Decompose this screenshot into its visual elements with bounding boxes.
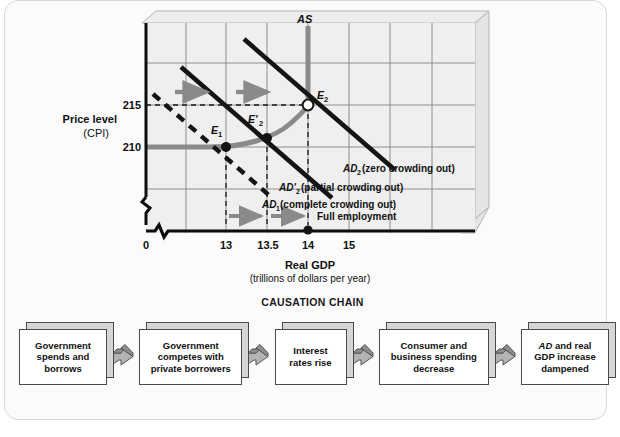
x-tick-0: 0 (143, 239, 149, 251)
svg-text:E': E' (248, 113, 258, 125)
causation-box-4-face[interactable]: Consumer and business spending decrease (379, 329, 489, 385)
box-1-line-1: Government (35, 340, 91, 351)
svg-text:2: 2 (324, 95, 328, 104)
box-1-line-2: spends and (37, 351, 90, 362)
causation-box-3-face[interactable]: Interest rates rise (275, 329, 347, 385)
box-2-line-2: competes with (158, 351, 224, 362)
box-5-line-2: GDP increase (534, 351, 596, 362)
chain-node-3[interactable]: Interest rates rise (275, 329, 347, 385)
box-1-line-3: borrows (44, 363, 81, 374)
causation-chain-row: Government spends and borrows (19, 318, 609, 396)
svg-text:2: 2 (296, 188, 300, 195)
causation-box-5-face[interactable]: AD and real GDP increase dampened (521, 329, 609, 385)
y-axis-label: Price level (63, 113, 117, 125)
ad-as-crowding-out-chart: AS E 1 E' 2 E 2 AD 2 (zero crowding out) (5, 1, 620, 286)
x-tick-14: 14 (302, 239, 315, 251)
box-5-line-3: dampened (541, 363, 589, 374)
causation-box-2-face[interactable]: Government competes with private borrowe… (139, 329, 242, 385)
causation-box-5[interactable]: AD and real GDP increase dampened (521, 329, 609, 385)
box-2-line-3: private borrowers (151, 363, 231, 374)
chain-arrow-4-icon (493, 344, 517, 370)
box-4-line-2: business spending (391, 351, 477, 362)
box-5-line-1: AD and real (539, 340, 592, 351)
causation-chain-title: CAUSATION CHAIN (5, 296, 620, 308)
svg-text:2: 2 (357, 169, 361, 176)
y-tick-215: 215 (123, 99, 141, 111)
causation-box-1-face[interactable]: Government spends and borrows (19, 329, 107, 385)
as-label: AS (296, 13, 313, 25)
chain-arrow-1-icon (111, 344, 135, 370)
svg-text:1: 1 (218, 130, 222, 139)
svg-text:AD: AD (261, 199, 276, 210)
svg-text:(complete crowding out): (complete crowding out) (280, 199, 396, 210)
causation-box-4[interactable]: Consumer and business spending decrease (379, 329, 489, 385)
point-e2 (303, 100, 314, 111)
chart-region: AS E 1 E' 2 E 2 AD 2 (zero crowding out) (5, 1, 620, 281)
figure-panel: AS E 1 E' 2 E 2 AD 2 (zero crowding out) (4, 0, 607, 420)
svg-text:(zero crowding out): (zero crowding out) (362, 163, 455, 174)
causation-chain-region: CAUSATION CHAIN Government spends and bo… (5, 286, 620, 416)
box-4-line-3: decrease (413, 363, 454, 374)
point-e1 (221, 142, 231, 152)
svg-text:(partial crowding out): (partial crowding out) (301, 182, 403, 193)
box-3-line-2: rates rise (289, 357, 331, 368)
chain-arrow-3-icon (351, 344, 375, 370)
chain-node-5[interactable]: AD and real GDP increase dampened (521, 329, 609, 385)
causation-box-1[interactable]: Government spends and borrows (19, 329, 107, 385)
svg-text:2: 2 (259, 119, 263, 128)
chain-arrow-2-icon (246, 344, 270, 370)
box-2-line-1: Government (163, 340, 219, 351)
chain-node-1[interactable]: Government spends and borrows (19, 329, 107, 385)
svg-text:AD': AD' (278, 182, 296, 193)
x-axis-label: Real GDP (285, 259, 335, 271)
x-tick-13: 13 (220, 239, 232, 251)
causation-box-2[interactable]: Government competes with private borrowe… (139, 329, 242, 385)
svg-text:AD: AD (342, 163, 357, 174)
box-3-line-1: Interest (293, 345, 327, 356)
point-full-employment (303, 225, 312, 234)
full-employment-label: Full employment (317, 211, 397, 222)
chain-node-4[interactable]: Consumer and business spending decrease (379, 329, 489, 385)
x-axis-sublabel: (trillions of dollars per year) (250, 273, 371, 284)
x-tick-15: 15 (343, 239, 355, 251)
causation-box-3[interactable]: Interest rates rise (275, 329, 347, 385)
y-tick-210: 210 (123, 141, 141, 153)
y-axis-sublabel: (CPI) (83, 127, 109, 139)
box-4-line-1: Consumer and (400, 340, 467, 351)
chain-node-2[interactable]: Government competes with private borrowe… (139, 329, 242, 385)
point-e2-prime (262, 133, 272, 143)
x-tick-13-5: 13.5 (257, 239, 278, 251)
